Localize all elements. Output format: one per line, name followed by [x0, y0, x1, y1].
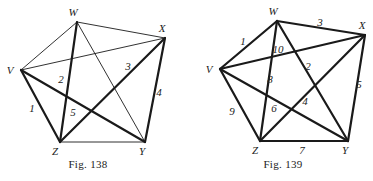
figure-caption: Fig. 138 [68, 158, 107, 170]
edge-WX [77, 22, 165, 38]
vertex-label-W: W [68, 6, 78, 18]
edge-label: 3 [124, 60, 131, 72]
edge-label: 4 [156, 86, 162, 98]
edge-label: 2 [305, 60, 311, 72]
edge-WY [77, 22, 145, 142]
vertex-label-Y: Y [139, 145, 147, 157]
edge-label: 5 [356, 78, 362, 90]
edge-label: 8 [267, 73, 273, 85]
edge-label: 6 [271, 102, 277, 114]
edge-WY [277, 21, 348, 141]
figure-138: 12345WXVZYFig. 138 [7, 6, 167, 170]
edge-label: 5 [70, 106, 76, 118]
edge-label: 1 [29, 102, 35, 114]
vertex-label-V: V [7, 64, 15, 76]
vertex-label-Z: Z [252, 144, 259, 156]
vertex-label-Y: Y [342, 144, 350, 156]
vertex-label-X: X [158, 22, 167, 34]
edge-label: 4 [302, 95, 308, 107]
edge-VX [21, 38, 165, 70]
edge-ZX [60, 38, 165, 142]
edge-label: 2 [58, 73, 64, 85]
vertex-label-V: V [206, 63, 214, 75]
figure-caption: Fig. 139 [263, 158, 302, 170]
edge-label: 9 [229, 105, 235, 117]
graph-diagram-canvas: 12345WXVZYFig. 138 12345678910WXVZYFig. … [0, 0, 373, 181]
edge-label: 3 [316, 16, 323, 28]
edge-label: 7 [299, 144, 305, 156]
vertex-label-X: X [358, 19, 367, 31]
edge-label: 10 [273, 43, 285, 55]
figure-139: 12345678910WXVZYFig. 139 [206, 5, 367, 170]
edge-label: 1 [240, 35, 246, 47]
vertex-label-W: W [268, 5, 278, 17]
edge-VW [21, 22, 77, 70]
vertex-label-Z: Z [52, 145, 59, 157]
